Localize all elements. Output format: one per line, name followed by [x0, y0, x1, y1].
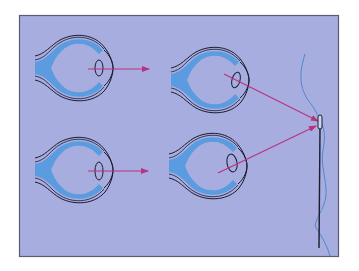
- needle-shaft: [319, 128, 320, 248]
- diagram-background: [20, 16, 339, 257]
- eye-accommodation-diagram: [0, 0, 359, 271]
- needle-eye: [318, 115, 322, 129]
